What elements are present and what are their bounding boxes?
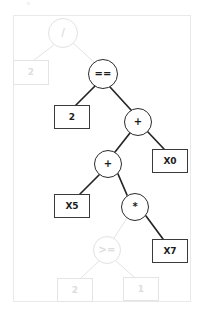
tree-edge xyxy=(114,218,127,238)
tree-node-label: * xyxy=(132,202,137,212)
tree-edge xyxy=(81,261,99,278)
tree-edge xyxy=(118,174,127,195)
tree-node-label: + xyxy=(104,159,112,169)
tree-edge xyxy=(34,45,54,60)
tree-operator-node[interactable]: == xyxy=(88,59,118,89)
tree-node-label: >= xyxy=(99,245,116,255)
tree-operator-node[interactable]: * xyxy=(121,193,149,221)
tree-edge xyxy=(146,216,163,239)
tree-edge xyxy=(76,86,95,105)
tree-terminal-node[interactable]: X5 xyxy=(54,194,90,218)
tree-node-label: == xyxy=(95,69,112,79)
tree-terminal-node[interactable]: 1 xyxy=(123,277,159,301)
tree-edge xyxy=(80,175,99,194)
tree-terminal-node[interactable]: 2 xyxy=(57,278,93,302)
tree-node-label: 1 xyxy=(138,285,144,294)
tree-edge xyxy=(73,43,95,63)
tree-node-label: 2 xyxy=(28,68,34,77)
tree-node-label: X5 xyxy=(65,202,78,211)
expression-tree-figure: /2==2++X0X5*>=X721 xyxy=(0,0,205,319)
tree-terminal-node[interactable]: 2 xyxy=(13,60,49,85)
tree-edge xyxy=(110,87,131,110)
tree-operator-node[interactable]: + xyxy=(94,150,122,178)
tree-edge xyxy=(115,133,130,152)
tree-node-label: X7 xyxy=(163,247,176,256)
tree-edge xyxy=(116,261,134,277)
tree-terminal-node[interactable]: X0 xyxy=(152,149,188,173)
tree-node-label: X0 xyxy=(163,157,176,166)
tree-terminal-node[interactable]: 2 xyxy=(54,105,90,129)
tree-operator-node[interactable]: >= xyxy=(93,236,121,264)
tree-node-label: / xyxy=(61,28,65,38)
tree-node-label: 2 xyxy=(69,113,75,122)
tree-node-label: 2 xyxy=(72,286,78,295)
tree-operator-node[interactable]: / xyxy=(48,18,78,48)
tree-terminal-node[interactable]: X7 xyxy=(152,239,188,263)
tree-node-label: + xyxy=(134,117,142,127)
tree-operator-node[interactable]: + xyxy=(124,108,152,136)
tree-edge xyxy=(147,131,164,149)
